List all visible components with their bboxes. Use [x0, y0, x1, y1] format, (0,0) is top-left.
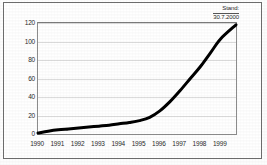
stand-annotation: Stand: 30.7.2000 — [213, 5, 239, 22]
y-tick-label-20: 20 — [5, 111, 35, 118]
x-tick-label-1999: 1999 — [205, 139, 235, 148]
y-tick-label-100: 100 — [5, 37, 35, 44]
y-tick-label-120: 120 — [5, 19, 35, 26]
y-tick-label-60: 60 — [5, 74, 35, 81]
y-tick-label-0: 0 — [5, 130, 35, 137]
data-line-path — [38, 25, 236, 133]
plot-area — [37, 22, 237, 135]
data-line-series — [38, 23, 236, 134]
annotation-date: 30.7.2000 — [213, 13, 239, 22]
y-axis-labels: 020406080100120 — [2, 22, 35, 135]
y-tick-label-40: 40 — [5, 93, 35, 100]
x-axis-labels: 1990199119921993199419951996199719981999 — [37, 139, 237, 151]
chart-figure: Stand: 30.7.2000 020406080100120 1990199… — [0, 0, 267, 165]
y-tick-label-80: 80 — [5, 56, 35, 63]
annotation-label: Stand: — [222, 5, 239, 11]
